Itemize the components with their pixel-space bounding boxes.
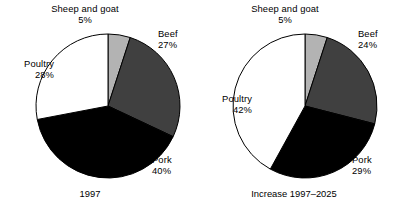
slice-label-name: Sheep and goat xyxy=(20,3,150,14)
slice-label-name: Beef xyxy=(358,28,398,39)
chart-caption-increase: Increase 1997–2025 xyxy=(224,188,364,199)
slice-label-poultry: Poultry 42% xyxy=(200,93,252,116)
slice-label-name: Poultry xyxy=(2,58,54,69)
pie-chart-1997: Sheep and goat 5% Beef 27% Poultry 28% P… xyxy=(0,0,200,212)
pie-chart-increase-1997-2025: Sheep and goat 5% Beef 24% Poultry 42% P… xyxy=(200,0,400,212)
slice-label-name: Beef xyxy=(158,28,198,39)
slice-label-name: Pork xyxy=(352,154,394,165)
slice-label-pork: Pork 40% xyxy=(152,154,194,177)
slice-label-pork: Pork 29% xyxy=(352,154,394,177)
slice-label-percent: 29% xyxy=(352,165,394,176)
slice-label-percent: 5% xyxy=(220,14,350,25)
slice-label-percent: 40% xyxy=(152,165,194,176)
slice-label-name: Poultry xyxy=(200,93,252,104)
slice-label-sheep-and-goat: Sheep and goat 5% xyxy=(220,3,350,26)
chart-caption-1997: 1997 xyxy=(60,188,120,199)
slice-label-percent: 28% xyxy=(2,69,54,80)
slice-label-poultry: Poultry 28% xyxy=(2,58,54,81)
slice-label-sheep-and-goat: Sheep and goat 5% xyxy=(20,3,150,26)
slice-label-percent: 27% xyxy=(158,39,198,50)
slice-label-beef: Beef 24% xyxy=(358,28,398,51)
slice-label-name: Pork xyxy=(152,154,194,165)
slice-label-percent: 24% xyxy=(358,39,398,50)
slice-label-percent: 42% xyxy=(200,104,252,115)
two-pie-chart-figure: Sheep and goat 5% Beef 27% Poultry 28% P… xyxy=(0,0,400,212)
slice-label-name: Sheep and goat xyxy=(220,3,350,14)
slice-label-percent: 5% xyxy=(20,14,150,25)
slice-label-beef: Beef 27% xyxy=(158,28,198,51)
